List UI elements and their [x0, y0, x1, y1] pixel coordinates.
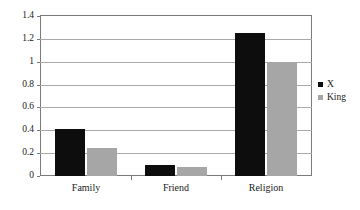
bar-group	[221, 16, 311, 176]
bar-friend-king	[177, 167, 207, 176]
y-tick-mark	[37, 130, 40, 131]
y-tick-label: 0.6	[0, 102, 34, 112]
y-tick-mark	[37, 107, 40, 108]
legend-item-king: King	[318, 91, 360, 104]
bar-group	[41, 16, 131, 176]
legend-label-king: King	[327, 93, 346, 103]
x-tick-mark	[131, 176, 132, 180]
y-tick-label: 0.2	[0, 148, 34, 158]
legend-item-x: X	[318, 78, 360, 91]
y-tick-label: 0	[0, 171, 34, 181]
y-tick-mark	[37, 16, 40, 17]
y-tick-label: 0.8	[0, 80, 34, 90]
legend-label-x: X	[327, 80, 334, 90]
bars-layer	[41, 16, 311, 176]
legend-swatch-x	[318, 82, 323, 87]
bar-group	[131, 16, 221, 176]
y-tick-mark	[37, 39, 40, 40]
bar-friend-x	[145, 165, 175, 176]
x-category-label-religion: Religion	[221, 183, 311, 193]
y-tick-label: 1.2	[0, 34, 34, 44]
bar-family-x	[55, 129, 85, 176]
y-tick-mark	[37, 176, 40, 177]
bar-family-king	[87, 148, 117, 176]
y-tick-mark	[37, 85, 40, 86]
y-tick-mark	[37, 62, 40, 63]
bar-religion-king	[267, 62, 297, 176]
bar-chart: 00.20.40.60.811.21.4 FamilyFriendReligio…	[0, 0, 360, 210]
x-category-label-friend: Friend	[131, 183, 221, 193]
bar-religion-x	[235, 33, 265, 176]
y-tick-label: 1.4	[0, 11, 34, 21]
x-tick-mark	[221, 176, 222, 180]
y-tick-mark	[37, 153, 40, 154]
x-category-label-family: Family	[41, 183, 131, 193]
legend: XKing	[318, 78, 360, 104]
y-tick-label: 0.4	[0, 125, 34, 135]
y-tick-label: 1	[0, 57, 34, 67]
legend-swatch-king	[318, 95, 323, 100]
